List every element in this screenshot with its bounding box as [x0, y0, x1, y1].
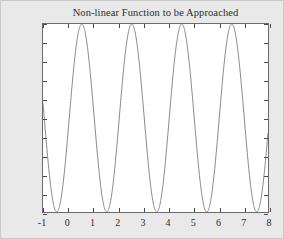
- figure-container: Non-linear Function to be Approached 00.…: [0, 0, 284, 239]
- x-tick-mark: [270, 208, 271, 212]
- y-tick-mark: [43, 214, 47, 215]
- x-tick-mark: [270, 24, 271, 28]
- y-tick-mark: [264, 214, 268, 215]
- x-tick-label: 8: [254, 217, 284, 228]
- chart-title: Non-linear Function to be Approached: [42, 7, 269, 18]
- x-axis-labels: -1012345678: [42, 23, 269, 213]
